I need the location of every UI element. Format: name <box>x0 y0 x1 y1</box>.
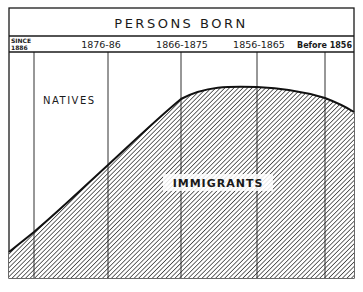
col-header-1856-1865: 1856-1865 <box>233 39 285 50</box>
immigrants-label: IMMIGRANTS <box>173 177 264 190</box>
natives-label: NATIVES <box>43 95 96 106</box>
chart-title: PERSONS BORN <box>114 16 247 31</box>
col-header-1876-86: 1876-86 <box>81 39 121 50</box>
chart-canvas: PERSONS BORN SINCE 1886 1876-86 1866-187… <box>0 0 363 292</box>
col-header-before-1856: Before 1856 <box>297 41 352 50</box>
col-header-1866-1875: 1866-1875 <box>156 39 208 50</box>
col-header-since-top: SINCE <box>11 37 31 44</box>
col-header-since-bottom: 1886 <box>11 44 28 51</box>
